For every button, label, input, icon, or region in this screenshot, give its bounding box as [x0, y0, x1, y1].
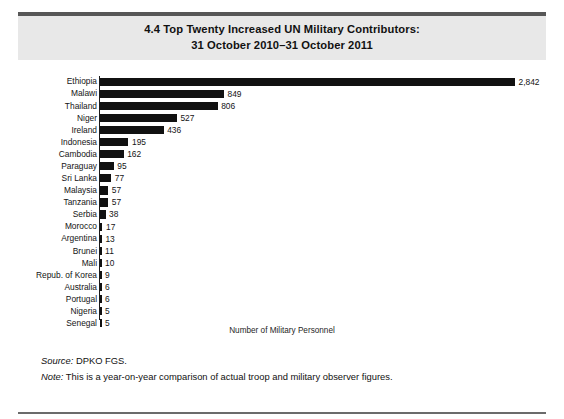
category-label: Sri Lanka	[0, 173, 97, 184]
bar-row: Brunei11	[0, 245, 564, 257]
bar-value-label: 11	[105, 246, 114, 257]
bar	[100, 235, 102, 243]
bar	[100, 295, 102, 303]
bar	[100, 307, 102, 315]
bar-value-label: 10	[105, 258, 114, 269]
note-value: This is a year-on-year comparison of act…	[63, 371, 392, 382]
category-label: Repub. of Korea	[0, 270, 97, 281]
bar	[100, 186, 108, 194]
bar-row: Nigeria5	[0, 306, 564, 318]
category-label: Morocco	[0, 221, 97, 232]
bar	[100, 126, 164, 134]
x-axis-title: Number of Military Personnel	[0, 326, 564, 335]
category-label: Serbia	[0, 209, 97, 220]
category-label: Indonesia	[0, 137, 97, 148]
figure-footnotes: Source: DPKO FGS. Note: This is a year-o…	[41, 353, 393, 384]
bar-value-label: 195	[132, 137, 146, 148]
title-band-top-rule	[18, 12, 546, 16]
bar-value-label: 13	[105, 234, 114, 245]
bar	[100, 138, 128, 146]
bar	[100, 271, 102, 279]
bar-value-label: 162	[127, 149, 141, 160]
bar	[100, 259, 102, 267]
bar-value-label: 849	[227, 89, 241, 100]
bar-value-label: 527	[180, 113, 194, 124]
bar	[100, 78, 515, 86]
bar-row: Sri Lanka77	[0, 173, 564, 185]
note-line: Note: This is a year-on-year comparison …	[41, 369, 393, 385]
category-label: Malawi	[0, 88, 97, 99]
bar-value-label: 5	[105, 306, 110, 317]
bar-row: Argentina13	[0, 233, 564, 245]
category-label: Cambodia	[0, 149, 97, 160]
bar-row: Malawi849	[0, 88, 564, 100]
bar-row: Malaysia57	[0, 185, 564, 197]
bar-value-label: 6	[105, 294, 110, 305]
note-label: Note:	[41, 371, 63, 382]
bar	[100, 114, 177, 122]
category-label: Portugal	[0, 294, 97, 305]
bar-value-label: 9	[105, 270, 110, 281]
bar-row: Morocco17	[0, 221, 564, 233]
figure-title-band: 4.4 Top Twenty Increased UN Military Con…	[18, 12, 546, 60]
bar	[100, 198, 108, 206]
figure-title-line-1: 4.4 Top Twenty Increased UN Military Con…	[18, 22, 546, 38]
bar-chart: Ethiopia2,842Malawi849Thailand806Niger52…	[0, 72, 564, 322]
bar-row: Indonesia195	[0, 136, 564, 148]
bar-value-label: 38	[109, 209, 118, 220]
bar-value-label: 95	[117, 161, 126, 172]
bar	[100, 174, 111, 182]
bar-value-label: 6	[105, 282, 110, 293]
source-line: Source: DPKO FGS.	[41, 353, 393, 369]
bar	[100, 162, 114, 170]
category-label: Niger	[0, 113, 97, 124]
bar-value-label: 436	[167, 125, 181, 136]
bar-value-label: 2,842	[519, 77, 540, 88]
bar-row: Cambodia162	[0, 148, 564, 160]
bar-value-label: 57	[112, 185, 121, 196]
bar-row: Serbia38	[0, 209, 564, 221]
bar-row: Repub. of Korea9	[0, 269, 564, 281]
bar	[100, 283, 102, 291]
category-label: Ireland	[0, 125, 97, 136]
bar-row: Paraguay95	[0, 161, 564, 173]
figure-title-line-2: 31 October 2010–31 October 2011	[18, 38, 546, 54]
bar-value-label: 17	[106, 222, 115, 233]
source-value: DPKO FGS.	[73, 355, 127, 366]
bar-value-label: 806	[221, 101, 235, 112]
bar	[100, 90, 224, 98]
bar-row: Thailand806	[0, 100, 564, 112]
figure-title: 4.4 Top Twenty Increased UN Military Con…	[18, 22, 546, 53]
bar-row: Portugal6	[0, 293, 564, 305]
bar	[100, 102, 218, 110]
bar	[100, 223, 102, 231]
page-bottom-rule	[18, 412, 546, 414]
bar	[100, 247, 102, 255]
category-label: Ethiopia	[0, 76, 97, 87]
bar-row: Australia6	[0, 281, 564, 293]
category-label: Australia	[0, 282, 97, 293]
category-label: Argentina	[0, 233, 97, 244]
bar-value-label: 57	[112, 197, 121, 208]
bar-row: Ethiopia2,842	[0, 76, 564, 88]
category-label: Nigeria	[0, 306, 97, 317]
bar-row: Niger527	[0, 112, 564, 124]
bar-row: Ireland436	[0, 124, 564, 136]
category-label: Brunei	[0, 246, 97, 257]
bar-value-label: 77	[115, 173, 124, 184]
category-label: Paraguay	[0, 161, 97, 172]
category-label: Tanzania	[0, 197, 97, 208]
bar-row: Tanzania57	[0, 197, 564, 209]
source-label: Source:	[41, 355, 73, 366]
category-label: Malaysia	[0, 185, 97, 196]
bar	[100, 150, 124, 158]
bar-row: Mali10	[0, 257, 564, 269]
category-label: Mali	[0, 258, 97, 269]
bar	[100, 210, 106, 218]
category-label: Thailand	[0, 101, 97, 112]
